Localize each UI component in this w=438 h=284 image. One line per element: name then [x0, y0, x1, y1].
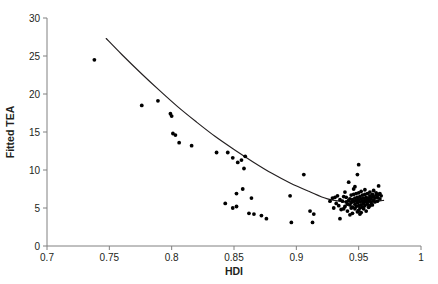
- data-point: [363, 188, 367, 192]
- data-point: [377, 184, 381, 188]
- data-point: [368, 204, 372, 208]
- data-point: [174, 133, 178, 137]
- data-point: [226, 151, 230, 155]
- y-axis-title: Fitted TEA: [4, 105, 16, 158]
- data-point: [235, 205, 239, 209]
- data-point: [236, 161, 240, 165]
- data-point: [170, 114, 174, 118]
- data-point: [247, 211, 251, 215]
- y-tick-label: 30: [29, 13, 41, 24]
- data-point: [358, 212, 362, 216]
- data-point: [92, 58, 96, 62]
- x-axis-title: HDI: [225, 265, 243, 277]
- data-point: [243, 154, 247, 158]
- y-tick-label: 25: [29, 51, 41, 62]
- data-point: [343, 205, 347, 209]
- data-point: [260, 214, 264, 218]
- data-point: [349, 206, 353, 210]
- y-tick-label: 5: [34, 203, 40, 214]
- x-axis-ticks: 0.70.750.80.850.90.951: [40, 246, 424, 263]
- chart-container: 051015202530 0.70.750.80.850.90.951 HDI …: [0, 0, 438, 284]
- x-tick-label: 1: [418, 252, 424, 263]
- data-point: [308, 209, 312, 213]
- x-tick-label: 0.9: [289, 252, 303, 263]
- x-tick-label: 0.8: [165, 252, 179, 263]
- data-point: [359, 189, 363, 193]
- data-point: [265, 217, 269, 221]
- data-point: [241, 187, 245, 191]
- data-point: [341, 199, 345, 203]
- data-point: [156, 99, 160, 103]
- data-point: [379, 194, 383, 198]
- x-tick-label: 0.7: [40, 252, 54, 263]
- data-point: [311, 221, 315, 225]
- data-point: [177, 141, 181, 145]
- data-point: [252, 212, 256, 216]
- data-point: [235, 192, 239, 196]
- y-tick-label: 15: [29, 127, 41, 138]
- data-point: [336, 194, 340, 198]
- data-point: [356, 173, 360, 177]
- y-axis-ticks: 051015202530: [29, 13, 47, 252]
- data-point: [190, 144, 194, 148]
- x-tick-label: 0.85: [224, 252, 244, 263]
- x-tick-label: 0.95: [349, 252, 369, 263]
- data-point: [312, 212, 316, 216]
- data-point: [343, 190, 347, 194]
- data-point: [231, 156, 235, 160]
- y-tick-label: 10: [29, 165, 41, 176]
- data-point: [223, 202, 227, 206]
- data-point: [288, 194, 292, 198]
- y-tick-label: 0: [34, 241, 40, 252]
- data-point: [364, 209, 368, 213]
- data-point: [347, 180, 351, 184]
- data-point: [289, 221, 293, 225]
- data-point: [140, 104, 144, 108]
- fitted-curve: [106, 39, 383, 203]
- data-point: [231, 206, 235, 210]
- data-point: [353, 185, 357, 189]
- data-point: [215, 151, 219, 155]
- data-point: [337, 204, 341, 208]
- data-point: [240, 158, 244, 162]
- data-point: [357, 163, 361, 167]
- data-point: [332, 206, 336, 210]
- data-point: [344, 195, 348, 199]
- data-point: [346, 209, 350, 213]
- x-tick-label: 0.75: [100, 252, 120, 263]
- data-point: [328, 199, 332, 203]
- data-point: [250, 196, 254, 200]
- data-point: [302, 173, 306, 177]
- data-point: [348, 213, 352, 217]
- data-point: [242, 167, 246, 171]
- y-tick-label: 20: [29, 89, 41, 100]
- scatter-plot: 051015202530 0.70.750.80.850.90.951 HDI …: [0, 0, 438, 284]
- data-points: [92, 58, 383, 224]
- data-point: [338, 217, 342, 221]
